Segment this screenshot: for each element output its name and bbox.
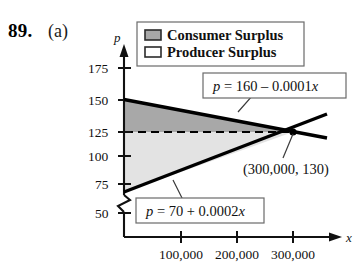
demand-eq-p: p	[212, 78, 220, 94]
legend-label-producer-surplus: Producer Surplus	[167, 44, 277, 60]
x-axis-arrowhead	[329, 233, 342, 242]
figure-page: 89. (a) p x 175 150 125	[0, 0, 358, 278]
surplus-chart: p x 175 150 125 100 75 50 100,000 200,00	[0, 0, 358, 278]
legend-swatch-producer-surplus	[145, 47, 161, 57]
demand-equation-callout: p = 160 – 0.0001x	[203, 73, 346, 112]
y-ticklabel-50: 50	[95, 206, 109, 221]
y-ticklabel-100: 100	[88, 149, 109, 164]
equilibrium-leader-line	[283, 134, 293, 158]
legend-label-consumer-surplus: Consumer Surplus	[167, 27, 284, 43]
legend-swatch-consumer-surplus	[145, 30, 161, 40]
y-ticklabel-125: 125	[88, 125, 109, 140]
supply-eq-x: x	[237, 203, 245, 219]
demand-equation-text: p = 160 – 0.0001x	[212, 78, 319, 94]
y-ticklabel-150: 150	[88, 93, 109, 108]
y-ticklabel-75: 75	[95, 177, 109, 192]
supply-eq-body: = 70 + 0.0002	[153, 203, 238, 219]
supply-equation-callout: p = 70 + 0.0002x	[136, 180, 264, 223]
x-ticklabel-300000: 300,000	[271, 247, 315, 262]
demand-eq-body: = 160 – 0.0001	[220, 78, 312, 94]
supply-equation-text: p = 70 + 0.0002x	[145, 203, 245, 219]
x-ticklabel-100000: 100,000	[159, 247, 203, 262]
y-axis-arrowhead	[120, 44, 129, 57]
demand-eq-x: x	[311, 78, 319, 94]
x-tick-group: 100,000 200,000 300,000	[159, 231, 315, 262]
equilibrium-point-label: (300,000, 130)	[243, 161, 329, 178]
y-axis-label: p	[113, 30, 121, 45]
x-ticklabel-200000: 200,000	[215, 247, 259, 262]
supply-eq-p: p	[145, 203, 153, 219]
y-ticklabel-175: 175	[88, 61, 109, 76]
y-axis-break-symbol	[118, 195, 130, 212]
x-axis-label: x	[345, 230, 352, 245]
legend: Consumer Surplus Producer Surplus	[137, 22, 304, 66]
